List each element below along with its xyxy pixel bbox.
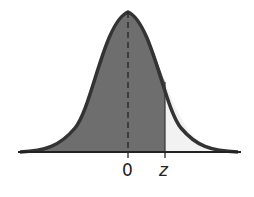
tick-label-z: z	[158, 160, 169, 180]
normal-curve-chart: 0 z	[0, 0, 254, 197]
tick-label-zero: 0	[122, 160, 133, 180]
